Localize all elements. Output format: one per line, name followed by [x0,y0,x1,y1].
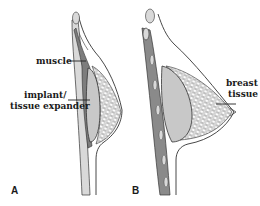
label-muscle: muscle [36,56,72,67]
label-breast-line2: tissue [228,89,258,100]
label-implant-line1: implant/ [24,90,66,101]
label-implant-line2: tissue expander [10,101,90,112]
diagram-stage: muscle implant/ tissue expander breast t… [0,0,260,206]
panel-letter-a: A [11,185,18,196]
label-breast-line1: breast [226,78,258,89]
panel-a-clavicle [73,12,80,24]
panel-b-clavicle-lower [143,28,149,40]
panel-letter-b: B [132,185,139,196]
panel-b-clavicle-top [146,9,155,23]
panel-b-illustration [142,9,236,195]
